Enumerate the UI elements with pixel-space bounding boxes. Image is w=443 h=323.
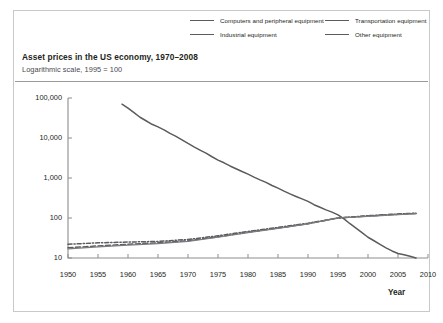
legend-swatch-thin-icon — [325, 30, 349, 39]
x-axis-tick-label: 1995 — [323, 271, 353, 279]
legend-label-industrial: Industrial equipment — [220, 31, 277, 39]
chart-title: Asset prices in the US economy, 1970–200… — [22, 52, 422, 63]
x-axis-tick-label: 2010 — [413, 271, 443, 279]
y-axis-tick-label: 10,000 — [16, 134, 62, 142]
y-axis-tick-label: 100,000 — [16, 94, 62, 102]
legend-label-computers: Computers and peripheral equipment — [220, 17, 324, 25]
y-axis-tick-label: 1,000 — [16, 174, 62, 182]
x-axis-tick-label: 1985 — [263, 271, 293, 279]
x-axis-title: Year — [388, 288, 405, 297]
legend-label-transportation: Transportation equipment — [355, 17, 426, 25]
x-axis-tick-label: 1950 — [53, 271, 83, 279]
legend-swatch-dashed-icon — [190, 30, 214, 39]
x-axis-tick-label: 1960 — [113, 271, 143, 279]
legend-item-industrial: Industrial equipment — [190, 29, 277, 40]
x-axis-tick-label: 2005 — [383, 271, 413, 279]
y-axis-tick-label: 10 — [16, 254, 62, 262]
x-axis-tick-label: 1955 — [83, 271, 113, 279]
x-axis-tick-label: 1965 — [143, 271, 173, 279]
chart-subtitle: Logarithmic scale, 1995 = 100 — [22, 64, 422, 75]
chart-legend: Computers and peripheral equipment Indus… — [190, 15, 436, 41]
x-axis-tick-label: 1980 — [233, 271, 263, 279]
legend-swatch-dashdot-icon — [325, 16, 349, 25]
x-axis-tick-label: 1975 — [203, 271, 233, 279]
y-axis-tick-label: 100 — [16, 214, 62, 222]
x-axis-tick-label: 1970 — [173, 271, 203, 279]
title-divider — [15, 81, 428, 82]
legend-item-transportation: Transportation equipment — [325, 15, 426, 26]
legend-swatch-solid-icon — [190, 16, 214, 25]
chart-figure: Computers and peripheral equipment Indus… — [0, 0, 443, 323]
legend-item-other: Other equipment — [325, 29, 402, 40]
x-axis-tick-label: 2000 — [353, 271, 383, 279]
x-axis-tick-label: 1990 — [293, 271, 323, 279]
title-block: Asset prices in the US economy, 1970–200… — [22, 52, 422, 75]
legend-label-other: Other equipment — [355, 31, 402, 39]
legend-item-computers: Computers and peripheral equipment — [190, 15, 324, 26]
